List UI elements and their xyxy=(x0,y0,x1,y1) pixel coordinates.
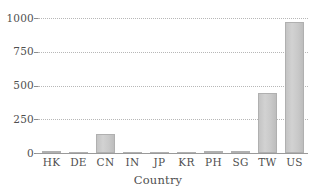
bar-chart: 02505007501000 HKDECNINJPKRPHSGTWUS Coun… xyxy=(0,0,316,195)
x-axis-title: Country xyxy=(0,174,316,187)
x-axis-tick-label: IN xyxy=(119,156,146,168)
x-axis-tick-label: KR xyxy=(173,156,200,168)
bar-tw xyxy=(258,93,277,153)
x-axis-tick-label: US xyxy=(281,156,308,168)
x-axis-tick-label: TW xyxy=(254,156,281,168)
bar-us xyxy=(285,22,304,153)
bar-cn xyxy=(96,134,115,153)
x-axis-tick-label: PH xyxy=(200,156,227,168)
x-axis-tick-label: HK xyxy=(38,156,65,168)
x-axis-tick-label: CN xyxy=(92,156,119,168)
x-axis-line xyxy=(36,153,308,154)
x-axis-tick-label: JP xyxy=(146,156,173,168)
x-axis-tick-label: SG xyxy=(227,156,254,168)
x-axis-tick-label: DE xyxy=(65,156,92,168)
